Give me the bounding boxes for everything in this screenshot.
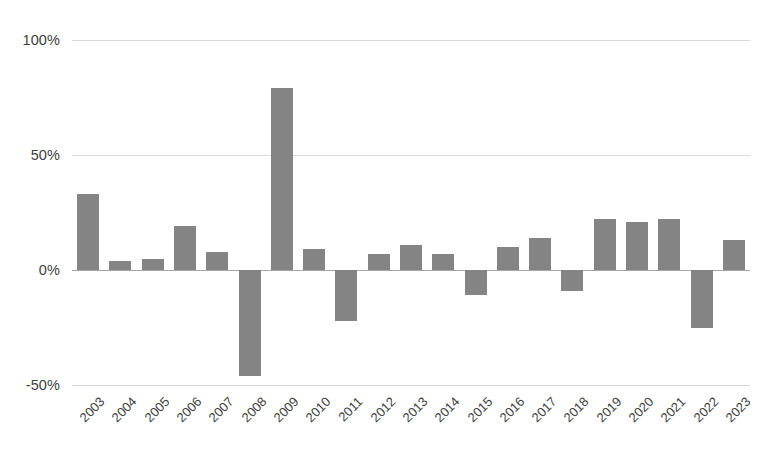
bar[interactable]: [723, 240, 745, 270]
bar[interactable]: [561, 270, 583, 291]
bar-slot: [363, 40, 395, 385]
bar-slot: [589, 40, 621, 385]
y-tick-label: 100%: [0, 32, 60, 48]
bar-slot: [395, 40, 427, 385]
bar[interactable]: [368, 254, 390, 270]
bar[interactable]: [626, 222, 648, 270]
bar[interactable]: [271, 88, 293, 270]
bar-slot: [266, 40, 298, 385]
bar-slot: [201, 40, 233, 385]
y-tick-label: 0%: [0, 262, 60, 278]
bar[interactable]: [529, 238, 551, 270]
y-tick-label: -50%: [0, 377, 60, 393]
bar-slot: [556, 40, 588, 385]
bar-slot: [492, 40, 524, 385]
bar[interactable]: [465, 270, 487, 295]
bar-slot: [653, 40, 685, 385]
bar[interactable]: [303, 249, 325, 270]
bar[interactable]: [206, 252, 228, 270]
bar[interactable]: [400, 245, 422, 270]
bar-slot: [459, 40, 491, 385]
bar-slot: [233, 40, 265, 385]
bar-slot: [718, 40, 750, 385]
bar[interactable]: [658, 219, 680, 270]
bar[interactable]: [77, 194, 99, 270]
bar[interactable]: [335, 270, 357, 321]
gridline: [72, 385, 750, 386]
bars: [72, 40, 750, 385]
bar[interactable]: [432, 254, 454, 270]
bar-slot: [137, 40, 169, 385]
x-axis-tick-labels: 2003200420052006200720082009201020112012…: [72, 388, 750, 457]
bar[interactable]: [594, 219, 616, 270]
bar-slot: [524, 40, 556, 385]
bar[interactable]: [142, 259, 164, 271]
y-tick-label: 50%: [0, 147, 60, 163]
bar[interactable]: [109, 261, 131, 270]
bar[interactable]: [497, 247, 519, 270]
bar-slot: [427, 40, 459, 385]
bar-slot: [169, 40, 201, 385]
bar-slot: [685, 40, 717, 385]
bar-slot: [298, 40, 330, 385]
bar-slot: [72, 40, 104, 385]
bar[interactable]: [691, 270, 713, 328]
bar-slot: [330, 40, 362, 385]
bar[interactable]: [174, 226, 196, 270]
bar[interactable]: [239, 270, 261, 376]
bar-slot: [104, 40, 136, 385]
plot-area: [72, 40, 750, 385]
bar-slot: [621, 40, 653, 385]
bar-chart: 100%50%0%-50% 20032004200520062007200820…: [0, 0, 766, 457]
